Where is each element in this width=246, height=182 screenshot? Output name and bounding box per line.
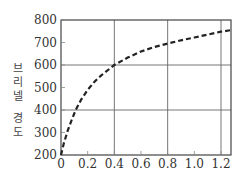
- hardness-curve: [61, 30, 231, 155]
- y-axis-label-gap: [10, 104, 26, 112]
- x-tick-label: 0.2: [78, 157, 97, 171]
- x-tick-label: 0.4: [105, 157, 124, 171]
- tick-marks: [61, 20, 221, 155]
- y-axis-label-char: 넬: [10, 90, 26, 104]
- plot-frame: [61, 20, 231, 155]
- x-tick-label: 0: [57, 157, 65, 171]
- y-tick-label: 300: [34, 126, 57, 140]
- y-tick-label: 700: [34, 36, 57, 50]
- x-axis-tick-labels: 00.20.40.60.81.01.2: [57, 157, 230, 171]
- x-tick-label: 1.0: [185, 157, 204, 171]
- x-tick-label: 0.8: [158, 157, 177, 171]
- y-axis-label-char: 브: [10, 62, 26, 76]
- y-axis-tick-labels: 200300400500600700800: [34, 13, 57, 162]
- y-tick-label: 200: [34, 148, 57, 162]
- y-axis-label-char: 도: [10, 126, 26, 140]
- y-axis-label-char: 리: [10, 76, 26, 90]
- y-tick-label: 500: [34, 81, 57, 95]
- grid-lines: [61, 20, 231, 155]
- y-tick-label: 800: [34, 13, 57, 27]
- x-tick-label: 0.6: [131, 157, 150, 171]
- y-tick-label: 600: [34, 58, 57, 72]
- y-tick-label: 400: [34, 103, 57, 117]
- y-axis-label-char: 경: [10, 112, 26, 126]
- y-axis-label: 브 리 넬 경 도: [10, 62, 26, 140]
- x-tick-label: 1.2: [211, 157, 230, 171]
- chart: 00.20.40.60.81.01.2 20030040050060070080…: [0, 0, 246, 182]
